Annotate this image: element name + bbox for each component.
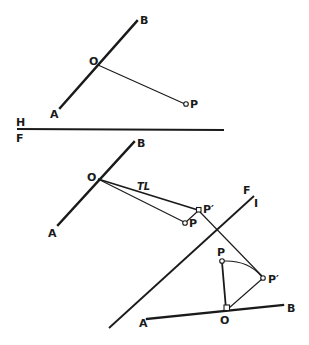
label-P-prime-aux: P′ — [268, 273, 279, 286]
line-AB-top — [60, 21, 137, 108]
line-OP-aux — [222, 262, 226, 309]
label-O-aux: O — [220, 314, 229, 327]
label-P-top: P — [190, 98, 198, 111]
label-B-front: B — [137, 137, 145, 150]
label-I-aux: I — [254, 197, 258, 210]
projection-line-P-prime — [200, 212, 262, 276]
label-P-aux: P — [217, 246, 225, 259]
auxiliary-view: P P′ O A B — [139, 246, 295, 330]
label-H: H — [16, 116, 25, 129]
label-O-top: O — [89, 55, 98, 68]
point-P-prime-aux — [261, 276, 266, 281]
top-view: B A O P — [50, 14, 198, 121]
label-A-aux: A — [139, 317, 148, 330]
label-P-front: P — [189, 217, 197, 230]
point-P-top — [184, 102, 189, 107]
line-OP-prime-aux — [229, 279, 262, 308]
label-F: F — [16, 132, 24, 145]
line-OP-top — [98, 65, 185, 104]
label-A-top: A — [50, 108, 59, 121]
front-view: B A O TL P P′ — [48, 137, 214, 240]
label-B-aux: B — [287, 302, 295, 315]
point-P-aux — [220, 259, 225, 264]
hf-line — [17, 129, 224, 130]
point-P-prime-front — [197, 208, 202, 213]
label-P-prime-front: P′ — [203, 203, 214, 216]
label-TL: TL — [137, 181, 150, 192]
diagram-canvas: B A O P H F B A O TL P P′ F I — [0, 0, 309, 345]
label-F-aux: F — [243, 184, 251, 197]
label-B-top: B — [140, 14, 148, 27]
fold-line-hf: H F — [16, 116, 224, 145]
label-O-front: O — [87, 171, 96, 184]
label-A-front: A — [48, 227, 57, 240]
line-AB-aux — [147, 305, 283, 319]
right-angle-marker — [224, 305, 230, 311]
point-P-front — [183, 221, 188, 226]
f1-line — [109, 196, 254, 328]
